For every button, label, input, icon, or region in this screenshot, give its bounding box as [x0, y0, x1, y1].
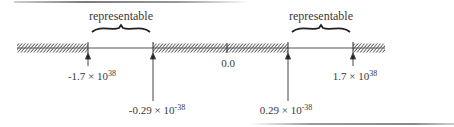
- exponent: -38: [174, 103, 185, 112]
- marker-label-neg-min: -0.29 × 10-38: [129, 104, 185, 116]
- marker-label-neg-max: -1.7 × 1038: [68, 70, 116, 82]
- representable-label-positive: representable: [289, 9, 353, 24]
- mantissa: 0.29 × 10: [260, 104, 302, 116]
- exponent: -38: [302, 103, 313, 112]
- mantissa: 1.7 × 10: [333, 70, 369, 82]
- brace-positive: [292, 25, 350, 32]
- representable-label-negative: representable: [89, 9, 153, 24]
- marker-label-pos-min: 0.29 × 10-38: [260, 104, 313, 116]
- origin-label: 0.0: [221, 57, 235, 69]
- brace-negative: [92, 25, 150, 32]
- arrow-up-icon: [151, 53, 156, 59]
- exponent: 38: [108, 69, 116, 78]
- mantissa: -1.7 × 10: [68, 70, 108, 82]
- arrow-up-icon: [286, 53, 291, 59]
- arrow-up-icon: [351, 53, 356, 59]
- marker-label-pos-max: 1.7 × 1038: [333, 70, 377, 82]
- number-line-diagram: representable representable 0.0 -1.7 × 1…: [0, 0, 454, 127]
- arrow-up-icon: [86, 53, 91, 59]
- mantissa: -0.29 × 10: [129, 104, 175, 116]
- exponent: 38: [369, 69, 377, 78]
